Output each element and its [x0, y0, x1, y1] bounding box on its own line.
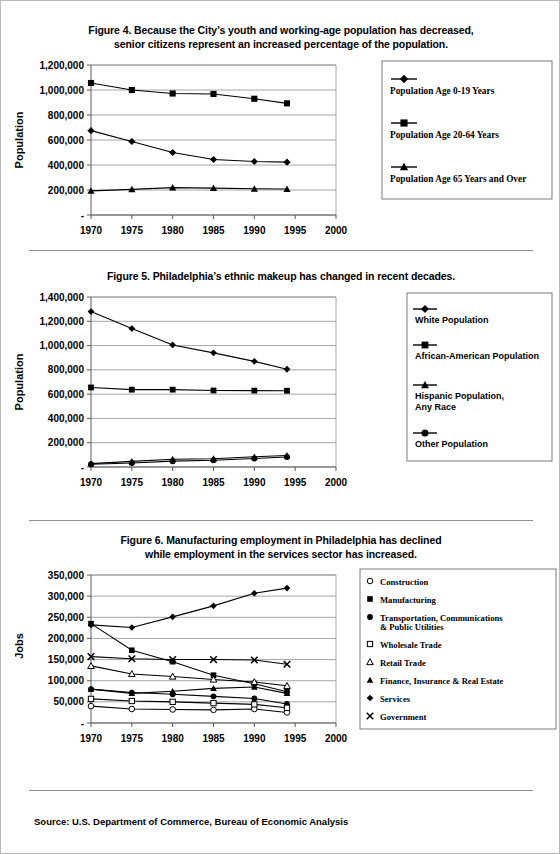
y-tick-label: 600,000 [48, 135, 85, 146]
y-tick-label: 100,000 [48, 675, 85, 686]
data-point-marker [88, 308, 95, 315]
legend-label: Wholesale Trade [380, 640, 442, 650]
data-point-marker [284, 366, 291, 373]
figure-6-legend: ConstructionManufacturingTransportation,… [360, 569, 556, 729]
figure-5-title-line1: Figure 5. Philadelphia’s ethnic makeup h… [1, 269, 560, 283]
data-point-marker [284, 454, 290, 460]
data-point-marker [251, 96, 257, 102]
figure-4-chart: -200,000400,000600,000800,0001,000,0001,… [1, 51, 560, 241]
data-point-marker [210, 349, 217, 356]
x-tick-label: 1995 [284, 477, 307, 488]
figure-5-svg: -200,000400,000600,000800,0001,000,0001,… [1, 283, 560, 498]
legend-marker [421, 305, 429, 313]
data-point-marker [284, 705, 289, 710]
data-point-marker [284, 100, 290, 106]
legend-item[interactable]: Population Age 0-19 Years [390, 75, 495, 96]
y-axis-title: Population [13, 353, 25, 410]
x-tick-label: 2000 [325, 225, 348, 236]
data-point-marker [211, 707, 217, 713]
x-tick-labels: 1970197519801985199019952000 [80, 467, 348, 488]
data-point-marker [211, 457, 217, 463]
y-tick-label: - [81, 210, 84, 221]
legend-item[interactable]: Finance, Insurance & Real Estate [367, 676, 504, 686]
x-tick-label: 2000 [325, 733, 348, 744]
data-point-marker [128, 138, 135, 145]
legend-marker [400, 75, 408, 83]
legend-label: Other Population [415, 439, 488, 449]
data-point-marker [129, 706, 135, 712]
legend-label: Hispanic Population,Any Race [415, 391, 504, 412]
data-point-marker [251, 158, 258, 165]
legend-item[interactable]: Wholesale Trade [367, 640, 441, 650]
figure-6-title: Figure 6. Manufacturing employment in Ph… [1, 533, 560, 561]
legend-label: Population Age 65 Years and Over [390, 174, 526, 184]
data-point-marker [170, 90, 176, 96]
data-point-marker [252, 702, 257, 707]
legend-item[interactable]: Transportation, Communications& Public U… [367, 613, 503, 633]
data-point-marker [170, 387, 176, 393]
y-tick-label: 1,000,000 [40, 340, 85, 351]
data-point-marker [129, 87, 135, 93]
data-point-marker [88, 663, 95, 669]
legend-label: Finance, Insurance & Real Estate [380, 676, 504, 686]
data-point-marker [169, 614, 176, 621]
data-point-marker [170, 458, 176, 464]
x-tick-label: 1970 [80, 733, 103, 744]
data-point-marker [251, 590, 258, 597]
legend-item[interactable]: African-American Population [413, 342, 539, 361]
series-3 [88, 452, 291, 466]
y-tick-label: 1,400,000 [40, 292, 85, 303]
series-group [88, 585, 291, 715]
legend-label: Retail Trade [380, 658, 426, 668]
x-tick-label: 1995 [284, 225, 307, 236]
legend-marker [367, 596, 373, 602]
legend-item[interactable]: Retail Trade [367, 658, 426, 668]
legend-item[interactable]: Population Age 65 Years and Over [390, 163, 526, 184]
figure-6-title-line1: Figure 6. Manufacturing employment in Ph… [1, 533, 560, 547]
y-tick-labels: -50,000100,000150,000200,000250,000300,0… [48, 570, 91, 729]
y-tick-label: 300,000 [48, 591, 85, 602]
data-point-marker [251, 358, 258, 365]
legend-label: Services [380, 694, 411, 704]
x-tick-label: 1975 [121, 477, 144, 488]
data-point-marker [211, 700, 216, 705]
figure-5-legend: White PopulationAfrican-American Populat… [407, 293, 552, 461]
legend-label: Transportation, Communications& Public U… [380, 613, 503, 633]
figure-4-panel: Figure 4. Because the City’s youth and w… [1, 23, 560, 241]
x-tick-label: 1985 [202, 477, 225, 488]
legend-item[interactable]: Government [367, 712, 427, 722]
x-tick-label: 1975 [121, 225, 144, 236]
x-tick-label: 1970 [80, 225, 103, 236]
data-point-marker [88, 80, 94, 86]
series-2 [88, 80, 290, 106]
data-point-marker [251, 456, 257, 462]
data-point-marker [211, 388, 217, 394]
series-7 [88, 585, 291, 631]
legend-label: Population Age 0-19 Years [390, 86, 495, 96]
figure-5-title: Figure 5. Philadelphia’s ethnic makeup h… [1, 269, 560, 283]
legend-marker [367, 641, 372, 646]
y-tick-label: 50,000 [53, 696, 84, 707]
data-point-marker [88, 461, 94, 467]
figure-4-title: Figure 4. Because the City’s youth and w… [1, 23, 560, 51]
x-tick-label: 1990 [243, 733, 266, 744]
y-tick-labels: -200,000400,000600,000800,0001,000,0001,… [40, 292, 92, 473]
legend-item[interactable]: Services [367, 694, 411, 704]
legend-item[interactable]: Manufacturing [367, 595, 436, 605]
data-point-marker [88, 696, 93, 701]
data-point-marker [251, 388, 257, 394]
data-point-marker [170, 699, 175, 704]
series-3 [87, 184, 290, 194]
x-tick-label: 1980 [162, 225, 185, 236]
legend-item[interactable]: Population Age 20-64 Years [390, 119, 499, 140]
legend-item[interactable]: White Population [413, 305, 489, 325]
series-2 [88, 385, 290, 394]
figure-6-svg: -50,000100,000150,000200,000250,000300,0… [1, 561, 560, 761]
legend-item[interactable]: Construction [367, 577, 428, 587]
legend-item[interactable]: Hispanic Population,Any Race [413, 381, 504, 412]
gridlines [91, 297, 336, 467]
figure-6-title-line2: while employment in the services sector … [1, 547, 560, 561]
data-point-marker [129, 387, 135, 393]
y-tick-label: 200,000 [48, 437, 85, 448]
legend-item[interactable]: Other Population [413, 429, 488, 449]
